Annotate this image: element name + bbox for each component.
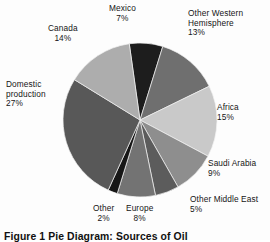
pie-chart [62, 42, 218, 198]
slice-label-domestic-line1: Domestic [6, 79, 41, 89]
slice-label-mexico-pct: 7% [109, 14, 136, 24]
slice-label-mexico: Mexico 7% [109, 4, 136, 23]
slice-label-africa-name: Africa [217, 102, 239, 112]
slice-label-africa-pct: 15% [217, 113, 239, 123]
slice-label-mexico-name: Mexico [109, 3, 136, 13]
slice-label-other-pct: 2% [93, 214, 114, 224]
slice-label-other-name: Other [93, 203, 114, 213]
slice-label-domestic-production: Domestic production 27% [6, 80, 46, 109]
slice-label-africa: Africa 15% [217, 103, 239, 122]
slice-label-other-western-hemisphere: Other Western Hemisphere 13% [188, 9, 243, 38]
slice-label-ome-name: Other Middle East [190, 194, 258, 204]
slice-label-other-middle-east: Other Middle East 5% [190, 195, 258, 214]
slice-label-europe-name: Europe [126, 203, 153, 213]
slice-label-canada-name: Canada [48, 23, 78, 33]
slice-label-ome-pct: 5% [190, 205, 258, 215]
slice-label-other: Other 2% [93, 204, 114, 223]
slice-label-europe: Europe 8% [126, 204, 153, 223]
pie-chart-svg [62, 42, 218, 198]
slice-label-saudi-name: Saudi Arabia [208, 158, 256, 168]
slice-label-europe-pct: 8% [126, 214, 153, 224]
slice-label-canada: Canada 14% [48, 24, 78, 43]
figure-caption: Figure 1 Pie Diagram: Sources of Oil [4, 231, 188, 242]
slice-label-saudi-pct: 9% [208, 169, 256, 179]
slice-label-canada-pct: 14% [48, 34, 78, 44]
slice-label-owh-line1: Other Western [188, 8, 243, 18]
slice-label-owh-pct: 13% [188, 28, 243, 38]
slice-label-saudi-arabia: Saudi Arabia 9% [208, 159, 256, 178]
slice-label-domestic-pct: 27% [6, 99, 46, 109]
